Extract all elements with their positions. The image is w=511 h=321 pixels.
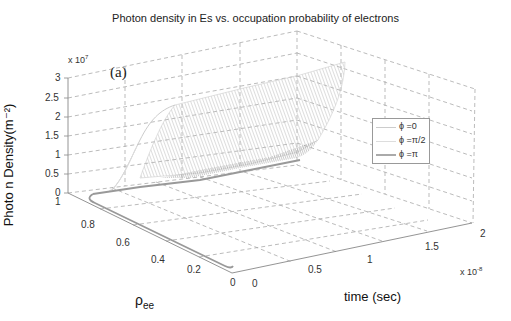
time-multiplier-base: x 10 <box>460 267 477 277</box>
chart-title: Photon density in Es vs. occupation prob… <box>0 12 511 24</box>
z-tick-1: 1 <box>55 149 61 160</box>
rho-symbol: ρ <box>135 292 143 308</box>
rho-tick-0.8: 0.8 <box>81 219 95 230</box>
z-tick-0.5: 0.5 <box>45 168 59 179</box>
legend-line-phi-pi-half <box>376 141 396 142</box>
z-tick-1.5: 1.5 <box>45 130 59 141</box>
legend-value: =π <box>404 149 418 159</box>
time-tick-0: 0 <box>252 278 258 289</box>
z-multiplier: x 107 <box>68 54 88 65</box>
legend-label-phi-pi-half: ϕ =π/2 <box>399 135 426 145</box>
rho-tick-0: 0 <box>230 277 236 288</box>
time-tick-1.5: 1.5 <box>425 241 439 252</box>
time-tick-2: 2 <box>480 228 486 239</box>
legend-value: =0 <box>404 121 417 131</box>
time-multiplier-exp: -8 <box>477 266 482 272</box>
z-tick-2: 2 <box>55 111 61 122</box>
legend-item-phi-pi-half: ϕ =π/2 <box>373 134 429 148</box>
legend-line-phi-pi <box>376 154 396 156</box>
legend-item-phi-pi: ϕ =π <box>373 148 429 162</box>
time-axis-label: time (sec) <box>344 289 401 304</box>
legend-item-phi-0: ϕ =0 <box>373 120 429 134</box>
z-axis-label: Photo n Density(m⁻²) <box>1 104 16 227</box>
legend-label-phi-0: ϕ =0 <box>399 121 417 131</box>
legend: ϕ =0 ϕ =π/2 ϕ =π <box>372 118 430 164</box>
rho-axis-label: ρee <box>135 292 154 311</box>
z-multiplier-base: x 10 <box>68 55 85 65</box>
z-multiplier-exp: 7 <box>85 54 88 60</box>
rho-tick-1: 1 <box>55 196 61 207</box>
z-ticks <box>64 78 68 193</box>
rho-tick-0.4: 0.4 <box>151 254 165 265</box>
time-multiplier: x 10-8 <box>460 266 482 277</box>
chart-3d-plot <box>0 0 511 321</box>
chart-figure: Photon density in Es vs. occupation prob… <box>0 0 511 321</box>
legend-label-phi-pi: ϕ =π <box>399 149 418 159</box>
time-tick-0.5: 0.5 <box>308 264 322 275</box>
rho-tick-0.2: 0.2 <box>187 264 201 275</box>
z-tick-2.5: 2.5 <box>45 92 59 103</box>
z-tick-3: 3 <box>55 72 61 83</box>
surface-phi-0 <box>108 62 345 192</box>
rho-subscript: ee <box>143 300 154 311</box>
panel-annotation: (a) <box>110 64 127 81</box>
rho-tick-0.6: 0.6 <box>116 237 130 248</box>
legend-line-phi-0 <box>376 127 396 128</box>
time-tick-1: 1 <box>367 254 373 265</box>
legend-value: =π/2 <box>404 135 425 145</box>
